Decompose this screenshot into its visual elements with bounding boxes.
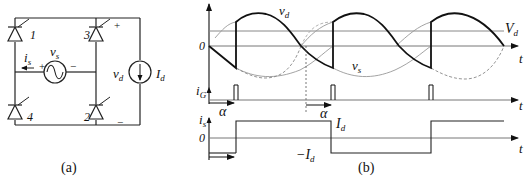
thyristor-2-label: 2 <box>84 110 90 124</box>
output-minus-sign: − <box>117 116 123 128</box>
is-label: is <box>199 112 207 129</box>
thyristor-4-icon <box>7 97 29 120</box>
load-current-label: Id <box>155 66 165 83</box>
Vd-label: Vd <box>505 21 519 38</box>
caption-a: (a) <box>61 160 77 176</box>
gate-pulse-1 <box>234 85 238 100</box>
output-plus-sign: + <box>114 19 120 31</box>
thyristor-4-label: 4 <box>27 110 33 124</box>
thyristor-1-icon <box>7 19 29 42</box>
is-waveform <box>236 121 504 153</box>
thyristor-3-icon <box>88 19 110 42</box>
source-voltage-label: vs <box>50 44 60 61</box>
caption-b: (b) <box>358 160 375 176</box>
figure-canvas: 1 3 4 2 vs + − is + − vd Id (a) <box>0 0 526 182</box>
gate-t-label: t <box>519 98 523 113</box>
voltage-panel: 0 vd Vd vs t <box>199 3 523 88</box>
thyristor-3-label: 3 <box>83 28 90 42</box>
current-t-label: t <box>519 141 523 156</box>
source-current-label: is <box>24 50 32 67</box>
gate-pulse-3 <box>429 85 433 100</box>
alpha-label-1: α <box>219 104 227 119</box>
voltage-zero-label: 0 <box>199 39 205 53</box>
thyristor-1-label: 1 <box>30 28 36 42</box>
vs-dashed-tail <box>431 46 504 79</box>
vd-label: vd <box>279 3 290 20</box>
Id-level-label: Id <box>335 116 346 133</box>
gate-panel: iG α α t <box>196 83 523 121</box>
voltage-t-label: t <box>519 51 523 66</box>
current-zero-label: 0 <box>199 131 205 145</box>
ig-label: iG <box>196 83 207 100</box>
dc-current-source-icon <box>129 61 151 83</box>
alpha-label-2: α <box>320 106 328 121</box>
output-voltage-label: vd <box>113 66 124 83</box>
neg-Id-level-label: −Id <box>296 147 315 164</box>
thyristor-2-icon <box>88 97 110 120</box>
current-panel: is 0 Id −Id t <box>199 112 523 164</box>
source-plus-sign: + <box>39 60 45 72</box>
gate-pulse-2 <box>331 85 335 100</box>
ac-source-icon <box>44 61 66 83</box>
vs-label: vs <box>352 58 362 75</box>
source-minus-sign: − <box>70 60 76 72</box>
